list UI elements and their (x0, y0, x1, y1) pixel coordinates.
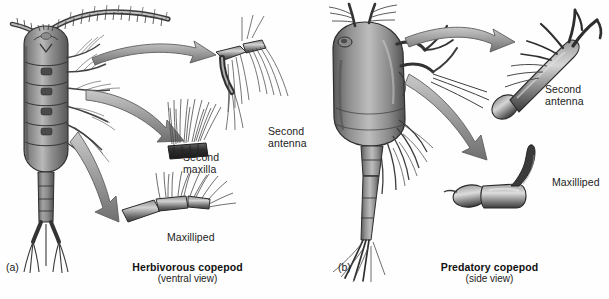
label-second-maxilla-a: Secondmaxilla (183, 152, 219, 176)
caption-b: Predatory copepod (side view) (407, 261, 572, 284)
label-maxilliped-b: Maxilliped (552, 177, 600, 189)
label-second-antenna-b: Secondantenna (545, 84, 584, 108)
panel-herbivorous-copepod: Secondantenna Secondmaxilla Maxilliped (… (0, 0, 305, 299)
detail-second-maxilla (168, 99, 221, 159)
urosome (24, 172, 68, 273)
arrow-to-maxilliped-b (405, 74, 487, 160)
detail-maxilliped-a (122, 171, 236, 222)
arrow-to-maxilliped (70, 132, 119, 222)
detail-second-antenna (216, 15, 288, 130)
label-second-antenna-a: Secondantenna (268, 126, 307, 150)
caption-subtitle-b: (side view) (407, 273, 572, 284)
detail-maxilliped-b (444, 145, 535, 209)
caption-title-a: Herbivorous copepod (100, 261, 275, 273)
copepod-comparison-figure: Secondantenna Secondmaxilla Maxilliped (… (0, 0, 609, 299)
label-maxilliped-a: Maxilliped (167, 232, 215, 244)
prosome-body (24, 24, 68, 172)
panel-a-illustration (0, 0, 305, 299)
caption-title-b: Predatory copepod (407, 261, 572, 273)
prosome-body-b (333, 22, 405, 146)
panel-index-a: (a) (6, 262, 19, 274)
panel-predatory-copepod: Secondantenna Maxilliped (b) Predatory c… (305, 0, 609, 299)
panel-index-b: (b) (338, 262, 351, 274)
first-antenna-right (44, 5, 168, 34)
arrow-to-second-antenna (92, 41, 216, 65)
panel-b-illustration (305, 0, 609, 299)
caption-subtitle-a: (ventral view) (100, 273, 275, 284)
caption-a: Herbivorous copepod (ventral view) (100, 261, 275, 284)
